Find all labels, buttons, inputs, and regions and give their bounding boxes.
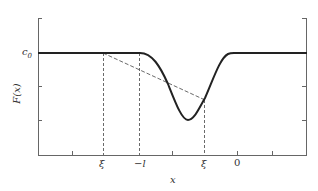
- xtick-minus-l: −l: [134, 158, 146, 169]
- x-axis-label: x: [170, 174, 176, 185]
- xtick-xi-right: ξ: [201, 158, 207, 169]
- vertical-guides: [104, 53, 205, 155]
- axes: [38, 18, 307, 156]
- xtick-zero: 0: [234, 157, 240, 168]
- xtick-xi-left: ξ: [99, 158, 105, 169]
- ytick-c0: c0: [22, 46, 32, 60]
- curve-F: [38, 53, 307, 120]
- y-axis-label: F(x): [11, 83, 22, 103]
- plot-area: [0, 0, 318, 191]
